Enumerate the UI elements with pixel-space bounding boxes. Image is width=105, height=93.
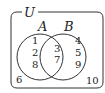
venn-diagram: U A B 1 2 8 3 7 4 5 9 6 10 — [0, 0, 105, 93]
set-b-label: B — [63, 19, 74, 34]
set-b-element: 9 — [75, 59, 81, 70]
set-a-element: 8 — [32, 59, 38, 70]
set-b-element: 4 — [75, 35, 81, 46]
outside-element: 10 — [86, 75, 99, 86]
universe-label: U — [24, 5, 36, 20]
set-a-element: 1 — [32, 35, 38, 46]
intersection-element: 3 — [54, 43, 60, 54]
set-a-label: A — [37, 19, 47, 34]
set-a-element: 2 — [32, 47, 38, 58]
outside-element: 6 — [16, 74, 22, 85]
intersection-element: 7 — [54, 54, 60, 65]
set-b-element: 5 — [75, 47, 81, 58]
